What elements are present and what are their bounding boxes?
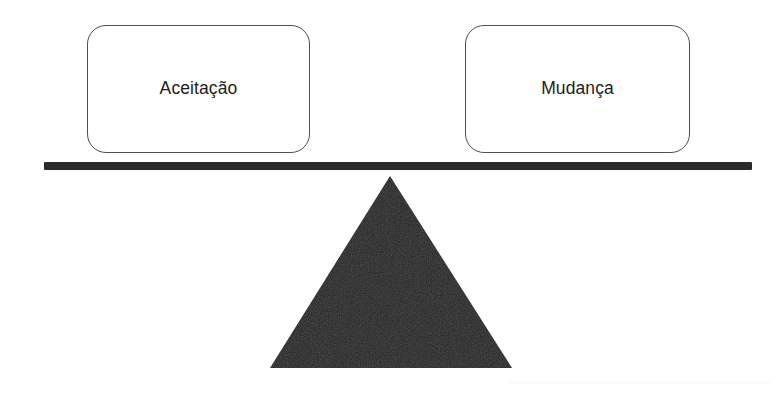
pan-label-left: Aceitação [160,80,238,98]
fulcrum-triangle-icon [265,170,517,372]
balance-diagram-canvas: Aceitação Mudança [0,0,781,395]
balance-beam [44,162,752,170]
pan-box-right: Mudança [465,25,690,153]
scan-artifact [508,381,770,384]
pan-label-right: Mudança [541,80,614,98]
pan-box-left: Aceitação [87,25,310,153]
